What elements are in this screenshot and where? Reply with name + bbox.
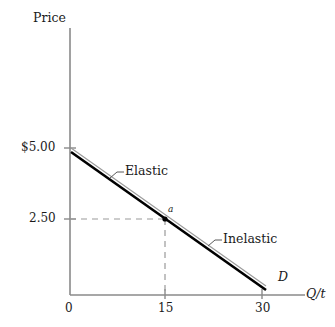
y-axis-title: Price bbox=[33, 12, 66, 25]
x-tick-label-30: 30 bbox=[255, 302, 270, 314]
inelastic-label: Inelastic bbox=[223, 233, 277, 246]
x-tick-label-0: 0 bbox=[65, 302, 73, 314]
point-a-label: a bbox=[168, 205, 173, 214]
demand-curve bbox=[71, 152, 266, 290]
point-a-marker bbox=[162, 216, 167, 221]
demand-curve-figure: Price Q/t $5.00 2.50 0 15 30 Elastic Ine… bbox=[0, 0, 335, 327]
elastic-label: Elastic bbox=[125, 165, 168, 178]
x-tick-label-15: 15 bbox=[158, 302, 173, 314]
y-tick-label-5: $5.00 bbox=[21, 141, 55, 153]
y-tick-label-2-50: 2.50 bbox=[29, 212, 56, 224]
demand-curve-highlight bbox=[71, 148, 266, 286]
demand-curve-label: D bbox=[278, 271, 288, 284]
x-axis-title: Q/t bbox=[306, 288, 325, 301]
inelastic-leader-line bbox=[208, 240, 222, 246]
